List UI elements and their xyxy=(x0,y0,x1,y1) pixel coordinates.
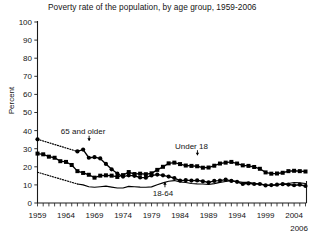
chart-figure: Poverty rate of the population, by age g… xyxy=(0,0,316,246)
svg-text:30: 30 xyxy=(23,145,32,154)
series-annotation: Under 18 xyxy=(175,142,208,151)
plot-area: 0102030405060708090100 19591964196919741… xyxy=(0,0,316,246)
svg-text:1979: 1979 xyxy=(143,211,161,220)
svg-text:100: 100 xyxy=(19,18,33,27)
clipped-caption xyxy=(30,241,286,246)
svg-text:1974: 1974 xyxy=(114,211,132,220)
series-annotation: 18-64 xyxy=(153,189,174,198)
svg-text:1989: 1989 xyxy=(200,211,218,220)
data-series-group xyxy=(35,137,307,188)
svg-text:1994: 1994 xyxy=(228,211,246,220)
svg-text:20: 20 xyxy=(23,163,32,172)
svg-text:40: 40 xyxy=(23,127,32,136)
svg-text:2004: 2004 xyxy=(285,211,303,220)
svg-text:80: 80 xyxy=(23,54,32,63)
svg-text:70: 70 xyxy=(23,72,32,81)
svg-text:1999: 1999 xyxy=(257,211,275,220)
svg-text:50: 50 xyxy=(23,108,32,117)
svg-text:0: 0 xyxy=(28,199,33,208)
svg-text:90: 90 xyxy=(23,36,32,45)
series-annotation: 65 and older xyxy=(61,127,106,136)
svg-text:60: 60 xyxy=(23,90,32,99)
svg-text:10: 10 xyxy=(23,181,32,190)
svg-text:1959: 1959 xyxy=(29,211,47,220)
end-year-label: 2006 xyxy=(290,224,308,233)
svg-text:1984: 1984 xyxy=(171,211,189,220)
svg-text:1964: 1964 xyxy=(57,211,75,220)
svg-text:1969: 1969 xyxy=(86,211,104,220)
y-axis-ticks: 0102030405060708090100 xyxy=(19,18,38,208)
x-axis-ticks: 1959196419691974197919841989199419992004 xyxy=(29,203,306,220)
